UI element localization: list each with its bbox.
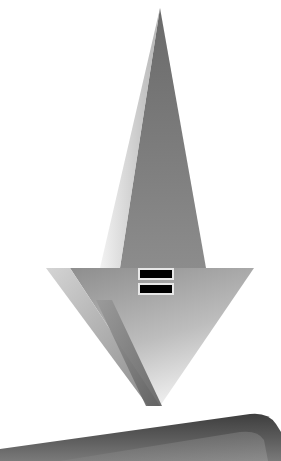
illustration [0,0,281,461]
slab-shape [0,414,281,461]
down-arrow-icon [46,8,254,406]
